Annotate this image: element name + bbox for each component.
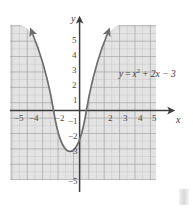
equation-rhs-exponent: 2 xyxy=(137,67,140,74)
x-tick-label--2: −2 xyxy=(55,114,65,123)
x-axis-label: x xyxy=(176,115,180,125)
x-tick-label--4: −4 xyxy=(29,114,39,123)
equation-label: y=x2+ 2x − 3 xyxy=(119,70,176,80)
y-tick-label--2: −2 xyxy=(68,132,78,141)
x-tick-label-3: 3 xyxy=(123,114,128,123)
x-tick-label--5: −5 xyxy=(14,114,24,123)
graph-figure: y x −5 −4 −2 2 3 4 5 5 4 3 2 1 −1 −2 −3 … xyxy=(0,0,193,209)
equation-rhs-rest: + 2x − 3 xyxy=(142,69,176,79)
y-tick-label-4: 4 xyxy=(72,51,77,60)
y-tick-label--5: −5 xyxy=(68,177,78,186)
equation-lhs: y xyxy=(119,69,123,79)
graph-canvas xyxy=(0,0,193,209)
corner-artifact xyxy=(179,189,189,205)
x-tick-label-4: 4 xyxy=(138,114,143,123)
y-axis-label: y xyxy=(71,14,75,24)
y-tick-label-3: 3 xyxy=(72,66,77,75)
y-tick-label-5: 5 xyxy=(72,36,77,45)
y-tick-label-2: 2 xyxy=(72,81,77,90)
x-tick-label-5: 5 xyxy=(152,114,157,123)
equation-relation: = xyxy=(125,69,130,79)
y-tick-label--3: −3 xyxy=(68,147,78,156)
y-tick-label-1: 1 xyxy=(73,96,78,105)
x-tick-label-2: 2 xyxy=(108,114,113,123)
y-tick-label--1: −1 xyxy=(68,117,78,126)
